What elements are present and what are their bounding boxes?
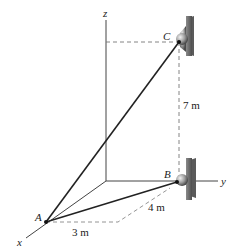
dimension-7m: 7 m [183,99,200,111]
y-axis-label: y [220,175,226,187]
dimension-4m: 4 m [148,201,165,213]
z-axis-label: z [102,7,108,19]
x-axis-label: x [16,236,22,248]
force-diagram: z y x A B C 7 m 4 m 3 m [0,0,238,252]
wall-support-B-icon [175,158,196,200]
point-A-label: A [34,211,42,223]
dimension-3m: 3 m [72,226,89,238]
point-C-label: C [163,30,171,42]
point-A [44,220,48,224]
point-B-label: B [164,168,171,180]
x-axis [26,181,106,238]
